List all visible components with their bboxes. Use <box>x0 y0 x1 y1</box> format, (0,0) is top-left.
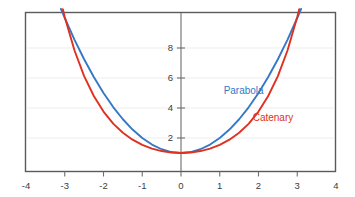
x-tick-label-4: 4 <box>333 181 338 191</box>
y-tick-label-2: 2 <box>159 133 173 143</box>
x-tick-label--3: -3 <box>61 181 69 191</box>
x-tick-label--2: -2 <box>99 181 107 191</box>
x-tick-label--4: -4 <box>22 181 30 191</box>
x-tick-label-0: 0 <box>178 181 183 191</box>
x-tick-label--1: -1 <box>138 181 146 191</box>
x-tick-label-3: 3 <box>295 181 300 191</box>
series-annotation-catenary: Catenary <box>253 113 294 123</box>
y-tick-label-6: 6 <box>159 73 173 83</box>
catenary-parabola-chart: -4-3-2-101234 2468 ParabolaCatenary <box>0 0 355 197</box>
x-axis-ticks <box>65 172 298 177</box>
x-tick-label-1: 1 <box>217 181 222 191</box>
y-tick-label-4: 4 <box>159 103 173 113</box>
series-annotation-parabola: Parabola <box>224 86 264 96</box>
y-tick-label-8: 8 <box>159 43 173 53</box>
x-tick-label-2: 2 <box>256 181 261 191</box>
plot-svg <box>0 0 355 197</box>
